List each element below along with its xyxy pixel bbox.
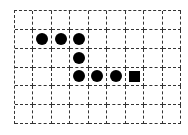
grid-cell-r2-c2[interactable] [52,49,70,68]
game-board [14,10,181,124]
grid-cell-r4-c6[interactable] [126,86,144,105]
grid-cell-r1-c8[interactable] [163,30,181,49]
square-piece-icon [129,71,140,82]
grid-cell-r5-c0[interactable] [15,105,33,124]
grid-cell-r4-c0[interactable] [15,86,33,105]
circle-piece-icon [110,70,122,82]
grid-cell-r4-c8[interactable] [163,86,181,105]
circle-piece-icon [73,52,85,64]
grid-cell-r0-c8[interactable] [163,11,181,30]
grid-cell-r3-c4[interactable] [89,68,107,87]
grid-cell-r5-c5[interactable] [107,105,125,124]
grid-cell-r0-c3[interactable] [70,11,88,30]
grid-cell-r3-c5[interactable] [107,68,125,87]
grid-cell-r1-c6[interactable] [126,30,144,49]
grid-cell-r1-c3[interactable] [70,30,88,49]
grid-cell-r5-c1[interactable] [33,105,51,124]
circle-piece-icon [73,70,85,82]
grid-cell-r2-c1[interactable] [33,49,51,68]
circle-piece-icon [55,33,67,45]
grid-cell-r5-c7[interactable] [144,105,162,124]
grid-cell-r3-c1[interactable] [33,68,51,87]
grid-cell-r2-c7[interactable] [144,49,162,68]
grid-cell-r4-c4[interactable] [89,86,107,105]
grid-cell-r0-c1[interactable] [33,11,51,30]
grid-cell-r0-c5[interactable] [107,11,125,30]
grid-cell-r0-c7[interactable] [144,11,162,30]
grid-cell-r0-c2[interactable] [52,11,70,30]
grid-cell-r1-c5[interactable] [107,30,125,49]
circle-piece-icon [36,33,48,45]
grid-cell-r2-c4[interactable] [89,49,107,68]
grid-cell-r4-c7[interactable] [144,86,162,105]
grid-cell-r3-c6[interactable] [126,68,144,87]
grid-cell-r0-c4[interactable] [89,11,107,30]
grid-cell-r4-c2[interactable] [52,86,70,105]
grid-cell-r3-c3[interactable] [70,68,88,87]
grid-cell-r2-c0[interactable] [15,49,33,68]
grid-cell-r5-c4[interactable] [89,105,107,124]
grid-cell-r3-c2[interactable] [52,68,70,87]
grid-cell-r2-c3[interactable] [70,49,88,68]
grid-cell-r1-c2[interactable] [52,30,70,49]
grid-cell-r1-c4[interactable] [89,30,107,49]
grid-cell-r1-c1[interactable] [33,30,51,49]
grid-cell-r3-c8[interactable] [163,68,181,87]
grid-cell-r5-c6[interactable] [126,105,144,124]
grid-cell-r1-c7[interactable] [144,30,162,49]
grid-cell-r3-c7[interactable] [144,68,162,87]
grid-cell-r5-c2[interactable] [52,105,70,124]
grid-cell-r2-c5[interactable] [107,49,125,68]
grid-cell-r4-c1[interactable] [33,86,51,105]
grid-cell-r4-c5[interactable] [107,86,125,105]
grid-cell-r1-c0[interactable] [15,30,33,49]
circle-piece-icon [73,33,85,45]
grid-cell-r5-c8[interactable] [163,105,181,124]
grid-cell-r0-c6[interactable] [126,11,144,30]
grid-cell-r2-c8[interactable] [163,49,181,68]
grid-cell-r4-c3[interactable] [70,86,88,105]
grid-cell-r3-c0[interactable] [15,68,33,87]
grid-cell-r5-c3[interactable] [70,105,88,124]
circle-piece-icon [91,70,103,82]
grid-cell-r2-c6[interactable] [126,49,144,68]
grid-cell-r0-c0[interactable] [15,11,33,30]
